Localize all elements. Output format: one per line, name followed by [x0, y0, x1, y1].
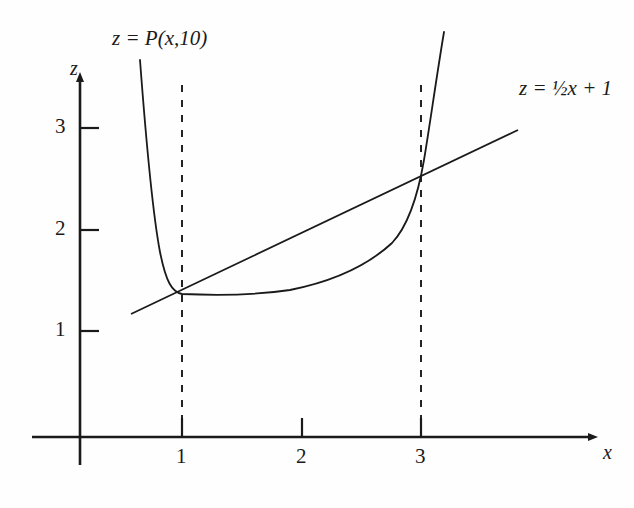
x-axis-label: x: [603, 442, 612, 462]
z-tick-label-3: 3: [55, 116, 66, 137]
z-tick-label-2: 2: [55, 218, 66, 239]
line-series-curve: [140, 32, 444, 295]
figure-container: z x 3 2 1 1 2 3 z = P(x,10) z = ½x + 1: [0, 0, 634, 508]
line-series-linear: [131, 130, 518, 314]
x-tick-label-3: 3: [415, 446, 426, 467]
x-tick-label-2: 2: [296, 446, 307, 467]
z-axis-label: z: [70, 58, 78, 78]
curve-annotation-label: z = P(x,10): [112, 28, 207, 49]
z-tick-label-1: 1: [55, 319, 66, 340]
x-tick-label-1: 1: [176, 446, 187, 467]
line-annotation-label: z = ½x + 1: [519, 78, 612, 99]
